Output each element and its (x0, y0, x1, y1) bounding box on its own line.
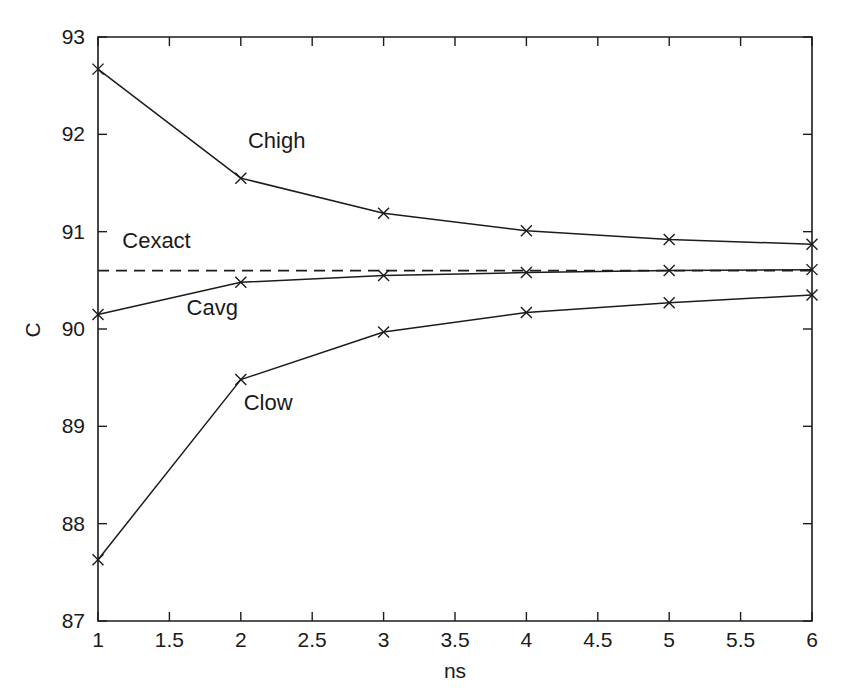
y-tick-label: 88 (62, 512, 85, 535)
x-axis-ticks (98, 612, 812, 621)
y-tick-label: 93 (62, 25, 85, 48)
x-tick-label: 2.5 (298, 628, 327, 651)
chart-figure: 87888990919293 11.522.533.544.555.56 Chi… (0, 0, 843, 694)
line-chart: 87888990919293 11.522.533.544.555.56 Chi… (0, 0, 843, 694)
x-tick-label: 4.5 (583, 628, 612, 651)
series-line-clow (98, 295, 812, 560)
y-axis-tick-labels: 87888990919293 (62, 25, 85, 632)
y-axis-right-ticks (803, 37, 812, 621)
plot-axes (98, 37, 812, 621)
x-tick-label: 5.5 (726, 628, 755, 651)
y-axis-title: C (21, 322, 44, 337)
x-tick-label: 2 (235, 628, 247, 651)
series-label-clow: Clow (244, 390, 293, 415)
series-label-cavg: Cavg (187, 295, 238, 320)
x-axis-tick-labels: 11.522.533.544.555.56 (92, 628, 818, 651)
x-tick-label: 6 (806, 628, 818, 651)
series-line-chigh (98, 69, 812, 244)
x-axis-top-ticks (98, 37, 812, 46)
x-tick-label: 1.5 (155, 628, 184, 651)
y-tick-label: 90 (62, 317, 85, 340)
x-tick-label: 3 (378, 628, 390, 651)
y-axis-ticks (98, 37, 107, 621)
series-label-cexact: Cexact (122, 228, 190, 253)
x-tick-label: 5 (663, 628, 675, 651)
data-point-marker (235, 374, 246, 385)
x-tick-label: 3.5 (440, 628, 469, 651)
x-tick-label: 1 (92, 628, 104, 651)
y-tick-label: 87 (62, 609, 85, 632)
y-tick-label: 89 (62, 414, 85, 437)
y-tick-label: 91 (62, 220, 85, 243)
x-tick-label: 4 (521, 628, 533, 651)
y-tick-label: 92 (62, 122, 85, 145)
series-label-chigh: Chigh (248, 128, 305, 153)
axis-box (98, 37, 812, 621)
x-axis-title: ns (444, 659, 466, 682)
data-point-marker (235, 173, 246, 184)
